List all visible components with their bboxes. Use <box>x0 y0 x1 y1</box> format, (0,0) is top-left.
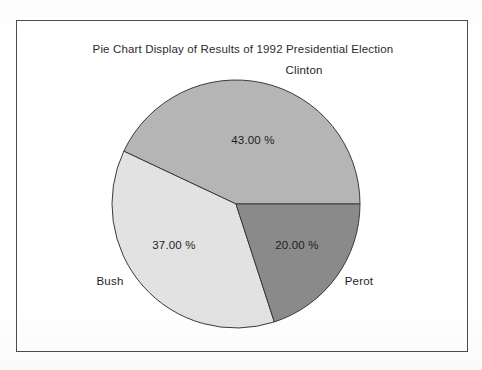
pie-slice-label-perot: Perot <box>345 275 374 287</box>
pie-slice-value-clinton: 43.00 % <box>231 134 275 146</box>
pie-slice-label-bush: Bush <box>96 275 123 287</box>
pie-slice-value-perot: 20.00 % <box>275 239 319 251</box>
pie-slices-group <box>112 80 360 328</box>
pie-slice-value-bush: 37.00 % <box>152 239 196 251</box>
pie-slice-label-clinton: Clinton <box>285 64 322 76</box>
pie-chart: 43.00 %Clinton37.00 %Bush20.00 %Perot <box>0 0 482 370</box>
scanned-page: Pie Chart Display of Results of 1992 Pre… <box>0 0 482 370</box>
